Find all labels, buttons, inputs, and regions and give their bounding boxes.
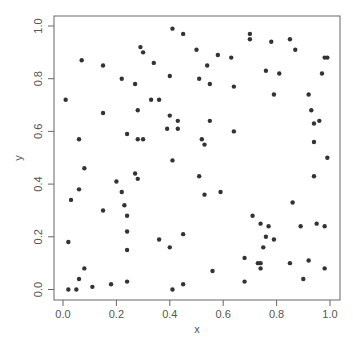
data-point: [312, 121, 316, 125]
y-tick-label: 0.6: [32, 124, 44, 139]
x-tick-label: 0.2: [109, 308, 124, 320]
data-point: [170, 26, 174, 30]
data-point: [138, 45, 142, 49]
data-point: [232, 84, 236, 88]
data-point: [232, 129, 236, 133]
data-point: [202, 142, 206, 146]
data-point: [152, 61, 156, 65]
data-point: [170, 287, 174, 291]
data-point: [133, 171, 137, 175]
data-point: [165, 127, 169, 131]
x-tick-label: 0.8: [269, 308, 284, 320]
data-point: [176, 127, 180, 131]
data-point: [258, 266, 262, 270]
data-point: [122, 203, 126, 207]
y-tick-label: 0.0: [32, 282, 44, 297]
data-point: [141, 50, 145, 54]
data-point: [298, 224, 302, 228]
data-point: [170, 158, 174, 162]
data-point: [272, 92, 276, 96]
plot-frame: [54, 16, 340, 300]
data-point: [181, 232, 185, 236]
data-point: [248, 32, 252, 36]
y-axis-label: y: [12, 155, 24, 161]
data-point: [101, 111, 105, 115]
data-point: [77, 277, 81, 281]
data-point: [264, 235, 268, 239]
data-point: [208, 119, 212, 123]
x-axis: 0.00.20.40.60.81.0: [55, 300, 337, 320]
data-point: [109, 282, 113, 286]
data-point: [168, 74, 172, 78]
data-point: [202, 192, 206, 196]
y-tick-label: 1.0: [32, 18, 44, 33]
data-point: [90, 285, 94, 289]
data-point: [312, 174, 316, 178]
data-point: [141, 137, 145, 141]
data-point: [288, 37, 292, 41]
x-tick-label: 0.4: [162, 308, 177, 320]
x-tick-label: 0.6: [216, 308, 231, 320]
data-point: [168, 245, 172, 249]
data-point: [136, 108, 140, 112]
data-point: [258, 221, 262, 225]
data-point: [269, 40, 273, 44]
data-point: [264, 69, 268, 73]
data-point: [157, 237, 161, 241]
data-point: [320, 71, 324, 75]
data-point: [288, 261, 292, 265]
data-point: [229, 55, 233, 59]
data-point: [176, 119, 180, 123]
data-point: [272, 237, 276, 241]
data-point: [250, 214, 254, 218]
y-axis: 0.00.20.40.60.81.0: [32, 18, 54, 297]
data-point: [216, 53, 220, 57]
data-point: [314, 221, 318, 225]
data-point: [125, 248, 129, 252]
data-point: [120, 190, 124, 194]
data-point: [133, 82, 137, 86]
data-point: [181, 282, 185, 286]
x-tick-label: 1.0: [322, 308, 337, 320]
data-point: [82, 166, 86, 170]
data-point: [125, 132, 129, 136]
data-point: [114, 179, 118, 183]
data-point: [74, 287, 78, 291]
data-point: [125, 214, 129, 218]
data-point: [309, 108, 313, 112]
data-point: [101, 63, 105, 67]
data-point: [69, 198, 73, 202]
data-point: [77, 137, 81, 141]
data-point: [66, 240, 70, 244]
data-point: [205, 63, 209, 67]
data-point: [248, 37, 252, 41]
x-tick-label: 0.0: [55, 308, 70, 320]
data-point: [197, 77, 201, 81]
scatter-plot: 0.00.20.40.60.81.0 0.00.20.40.60.81.0 x …: [0, 0, 353, 348]
data-point: [82, 266, 86, 270]
data-point: [325, 55, 329, 59]
data-point: [168, 113, 172, 117]
data-point: [136, 137, 140, 141]
data-point: [266, 224, 270, 228]
data-point: [322, 266, 326, 270]
y-tick-label: 0.2: [32, 229, 44, 244]
data-point: [136, 177, 140, 181]
data-point: [120, 77, 124, 81]
data-point: [293, 48, 297, 52]
data-point: [325, 156, 329, 160]
data-point: [125, 279, 129, 283]
data-point: [194, 48, 198, 52]
data-point: [210, 269, 214, 273]
data-point: [181, 32, 185, 36]
data-point: [242, 279, 246, 283]
data-point: [290, 200, 294, 204]
data-point: [208, 82, 212, 86]
data-point: [197, 174, 201, 178]
data-point: [242, 256, 246, 260]
data-point: [306, 258, 310, 262]
data-point: [261, 245, 265, 249]
y-tick-label: 0.4: [32, 176, 44, 191]
data-point: [218, 190, 222, 194]
data-point: [200, 137, 204, 141]
